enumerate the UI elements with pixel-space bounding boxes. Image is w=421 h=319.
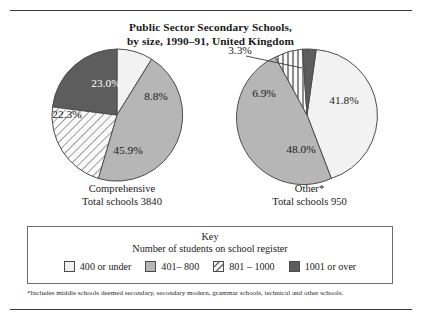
pie-chart-other: 41.8% 48.0% 6.9% 3.3% Other* Total schoo… <box>222 48 397 223</box>
legend-heading: Key <box>28 231 392 243</box>
legend-swatch-400-or-under <box>64 261 75 272</box>
legend-label-1001-or-over: 1001 or over <box>305 261 357 272</box>
slice-label-801-1000: 6.9% <box>252 87 276 99</box>
pie-right-caption: Other* Total schools 950 <box>222 182 397 208</box>
legend-label-801-1000: 801 – 1000 <box>229 261 274 272</box>
legend-subheading: Number of students on school register <box>28 243 392 255</box>
footnote: *Includes middle schools deemed secondar… <box>27 289 407 298</box>
legend-swatch-1001-or-over <box>289 261 300 272</box>
legend-item-401-800[interactable]: 401– 800 <box>145 261 199 272</box>
legend-label-400-or-under: 400 or under <box>80 261 132 272</box>
legend-items: 400 or under 401– 800 801 – 1000 1001 or… <box>28 261 392 272</box>
slice-label-401-800: 45.9% <box>113 144 143 156</box>
slice-label-400-or-under: 41.8% <box>329 94 359 106</box>
pie-left-caption: Comprehensive Total schools 3840 <box>42 182 202 208</box>
diagonal-hatch-icon <box>214 262 223 271</box>
legend-swatch-801-1000 <box>213 261 224 272</box>
legend-swatch-401-800 <box>145 261 156 272</box>
pie-right-caption-line-1: Other* <box>295 183 324 194</box>
legend-item-1001-or-over[interactable]: 1001 or over <box>289 261 357 272</box>
pie-chart-comprehensive: 8.8% 45.9% 22.3% 23.0% Comprehensive Tot… <box>42 48 202 223</box>
bottom-rule <box>10 309 412 310</box>
legend-item-400-or-under[interactable]: 400 or under <box>64 261 132 272</box>
slice-label-1001-or-over: 23.0% <box>91 77 121 89</box>
legend-label-401-800: 401– 800 <box>161 261 199 272</box>
pie-right-caption-line-2: Total schools 950 <box>222 195 397 208</box>
legend-item-801-1000[interactable]: 801 – 1000 <box>213 261 274 272</box>
page-title: Public Sector Secondary Schools, by size… <box>0 20 421 48</box>
slice-label-400-or-under: 8.8% <box>144 90 168 102</box>
legend-box: Key Number of students on school registe… <box>27 226 393 284</box>
slice-label-1001-or-over: 3.3% <box>228 44 252 56</box>
pie-left-caption-line-1: Comprehensive <box>89 183 156 194</box>
title-line-2: by size, 1990–91, United Kingdom <box>0 34 421 48</box>
slice-label-401-800: 48.0% <box>286 143 316 155</box>
top-rule <box>10 10 412 11</box>
slice-label-801-1000: 22.3% <box>52 108 82 120</box>
title-line-1: Public Sector Secondary Schools, <box>129 21 292 33</box>
pie-left-caption-line-2: Total schools 3840 <box>42 195 202 208</box>
